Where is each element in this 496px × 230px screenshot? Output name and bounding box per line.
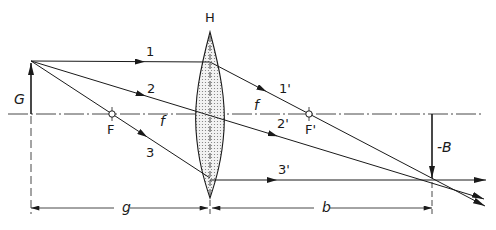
label-ray-3-prime: 3'	[278, 162, 290, 177]
label-image-B: -B	[437, 139, 452, 155]
ray-2-central	[31, 61, 484, 199]
ray-1-incoming	[31, 61, 210, 62]
ray-1-refracted	[210, 62, 485, 206]
label-ray-1-prime: 1'	[279, 81, 291, 96]
label-object-G: G	[14, 91, 25, 107]
label-image-distance-b: b	[322, 199, 331, 215]
label-object-distance-g: g	[122, 199, 131, 215]
lens-ray-diagram: H G -B F F' f f g b 1 2 3 1' 2' 3'	[0, 0, 496, 230]
label-lens-H: H	[205, 10, 215, 25]
focal-point-F-prime	[306, 107, 312, 121]
label-focal-F: F	[107, 122, 114, 137]
label-focal-F-prime: F'	[305, 122, 316, 137]
label-ray-2: 2	[147, 81, 155, 96]
label-ray-3: 3	[146, 145, 154, 160]
label-focal-length-left: f	[160, 113, 167, 129]
focal-point-F	[109, 107, 115, 121]
label-ray-2-prime: 2'	[277, 116, 289, 131]
label-ray-1: 1	[146, 44, 154, 59]
label-focal-length-right: f	[254, 97, 261, 113]
ray-3-incoming	[31, 61, 210, 178]
